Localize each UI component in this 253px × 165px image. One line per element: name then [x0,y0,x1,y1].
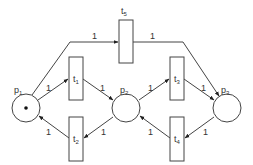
token-p1 [24,106,28,110]
transition-t5 [119,20,133,63]
arc-p1-t1 [38,79,68,100]
label-p2: p2 [120,85,129,96]
weight-t3-p3: 1 [201,83,206,93]
arc-t2-p1 [39,116,69,138]
arc-t1-p2 [83,79,113,100]
petri-net-diagram: 1 1 1 1 1 1 1 1 1 1 p1 p2 p3 t5 t1 t2 t3… [0,0,253,165]
weight-p1-t5: 1 [92,31,97,41]
weight-p3-t4: 1 [203,127,208,137]
arc-p3-t4 [185,117,214,138]
weight-t5-p3: 1 [150,31,155,41]
place-p3 [213,94,241,122]
label-t5: t5 [121,6,128,17]
arc-p2-t2 [84,117,113,138]
weight-p2-t2: 1 [101,127,106,137]
arc-p2-t3 [139,79,169,100]
weight-t2-p1: 1 [46,127,51,137]
arc-t4-p2 [140,116,170,138]
weight-t4-p2: 1 [148,127,153,137]
label-p3: p3 [221,85,230,96]
label-p1: p1 [14,85,23,96]
weight-t1-p2: 1 [100,83,105,93]
weight-p2-t3: 1 [148,83,153,93]
place-p2 [112,94,140,122]
weight-p1-t1: 1 [46,83,51,93]
